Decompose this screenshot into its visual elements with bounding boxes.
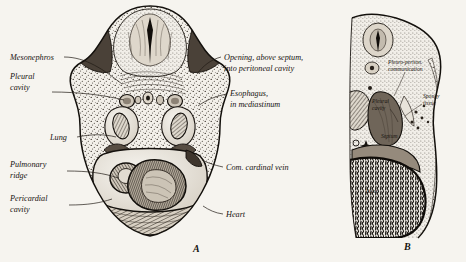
label-mesonephros: Mesonephros xyxy=(9,53,54,62)
b-vessel-lumen xyxy=(370,66,374,70)
accessory-duct xyxy=(135,96,141,104)
panel-b-drawing xyxy=(346,14,443,238)
panel-letter-b: B xyxy=(403,241,411,252)
left-vein-interior xyxy=(123,98,131,105)
label-pleuro-peritoneal-communication: Pleuro-periton.communication xyxy=(387,59,423,72)
label-com-cardinal-vein: Com. cardinal vein xyxy=(226,163,289,172)
panel-letter-a: A xyxy=(192,243,200,254)
label-septum: Septum xyxy=(381,133,397,139)
label-liver: Liver xyxy=(365,188,379,194)
right-vein-interior xyxy=(171,98,179,105)
label-heart: Heart xyxy=(225,210,246,219)
aorta-lumen xyxy=(156,95,163,104)
b-small-duct xyxy=(368,86,372,90)
label-lung: Lung xyxy=(49,133,67,142)
esophagus-interior xyxy=(146,95,150,100)
embryology-figure: MesonephrosPleuralcavityLungPulmonaryrid… xyxy=(0,0,466,262)
